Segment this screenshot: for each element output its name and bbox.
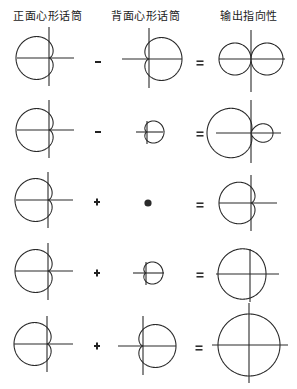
polar-pattern-diagram [0,0,297,389]
null-pattern-dot [144,199,151,206]
